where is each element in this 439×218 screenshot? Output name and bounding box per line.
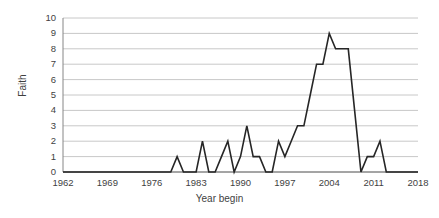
y-tick-label: 2 <box>32 136 56 146</box>
data-series-line <box>63 33 418 172</box>
y-tick-label: 0 <box>32 167 56 177</box>
x-axis-title: Year begin <box>0 193 439 204</box>
x-tick-label: 1997 <box>265 178 305 188</box>
y-tick-label: 10 <box>32 13 56 23</box>
x-tick-label: 1962 <box>43 178 83 188</box>
y-tick-label: 5 <box>32 90 56 100</box>
y-tick-label: 1 <box>32 152 56 162</box>
y-tick-label: 7 <box>32 59 56 69</box>
x-tick-label: 2018 <box>398 178 438 188</box>
gridlines <box>63 18 418 172</box>
y-tick-label: 3 <box>32 121 56 131</box>
x-tick-label: 1990 <box>221 178 261 188</box>
line-chart: 109876543210 196219691976198319901997200… <box>0 0 439 218</box>
x-tick-label: 2004 <box>309 178 349 188</box>
y-tick-label: 6 <box>32 75 56 85</box>
x-tick-label: 1976 <box>132 178 172 188</box>
x-tick-label: 2011 <box>354 178 394 188</box>
x-tick-label: 1969 <box>87 178 127 188</box>
y-tick-label: 4 <box>32 105 56 115</box>
y-axis-title: Faith <box>17 56 28 116</box>
x-tick-label: 1983 <box>176 178 216 188</box>
y-tick-label: 8 <box>32 44 56 54</box>
y-tick-label: 9 <box>32 28 56 38</box>
